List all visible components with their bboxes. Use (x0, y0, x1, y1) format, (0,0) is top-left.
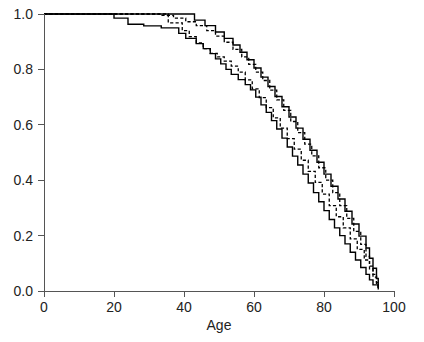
y-tick-label: 0.8 (14, 61, 34, 77)
chart-canvas: 0204060801000.00.20.40.60.81.0 Age (0, 0, 424, 342)
y-tick-label: 1.0 (14, 6, 34, 22)
x-tick-label: 20 (106, 299, 122, 315)
x-tick-label: 40 (176, 299, 192, 315)
x-tick-label: 80 (316, 299, 332, 315)
y-tick-label: 0.0 (14, 283, 34, 299)
y-tick-label: 0.6 (14, 117, 34, 133)
y-tick-label: 0.4 (14, 172, 34, 188)
x-tick-label: 0 (40, 299, 48, 315)
survival-curve-figure: 0204060801000.00.20.40.60.81.0 Age (0, 0, 424, 342)
x-axis-title: Age (207, 317, 232, 333)
x-tick-label: 60 (246, 299, 262, 315)
x-tick-label: 100 (382, 299, 406, 315)
y-tick-label: 0.2 (14, 228, 34, 244)
